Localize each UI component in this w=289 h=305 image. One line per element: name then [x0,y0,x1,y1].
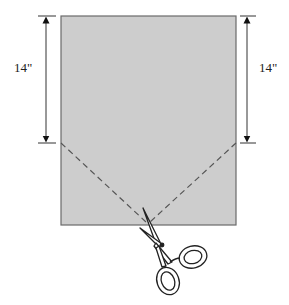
right-dimension: 14" [240,16,277,143]
left-dimension: 14" [14,16,56,143]
cutting-diagram: 14" 14" [0,0,289,305]
right-dimension-label: 14" [259,60,277,75]
left-dimension-label: 14" [14,60,32,75]
fabric-rectangle [61,16,236,225]
